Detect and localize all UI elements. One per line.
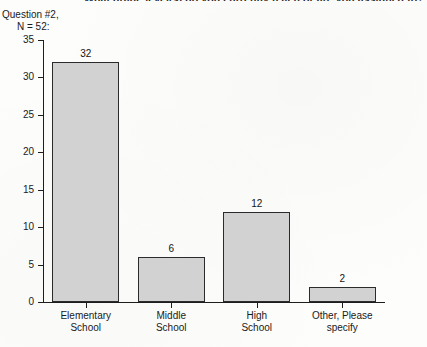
y-axis-tick — [38, 190, 43, 191]
bar — [138, 257, 205, 302]
bar — [309, 287, 376, 302]
y-axis-tick-label: 10 — [0, 222, 34, 232]
y-axis-tick — [38, 302, 43, 303]
y-axis-tick — [38, 265, 43, 266]
y-axis-tick-label: 25 — [0, 110, 34, 120]
y-axis-tick — [38, 227, 43, 228]
y-axis-tick-label: 20 — [0, 147, 34, 157]
x-axis-tick — [171, 303, 172, 308]
y-axis-tick — [38, 115, 43, 116]
x-axis-category-label: Other, Pleasespecify — [292, 310, 392, 334]
y-axis-tick — [38, 40, 43, 41]
y-axis-tick-label: 30 — [0, 72, 34, 82]
bar-chart-plot: 05101520253035 326122 ElementarySchoolMi… — [0, 0, 427, 347]
y-axis-tick-label: 15 — [0, 185, 34, 195]
x-axis-line — [43, 302, 385, 303]
y-axis-tick-label: 5 — [0, 260, 34, 270]
x-axis-tick — [342, 303, 343, 308]
y-axis-tick-label: 35 — [0, 35, 34, 45]
x-axis-tick — [257, 303, 258, 308]
y-axis-tick — [38, 152, 43, 153]
y-axis-tick — [38, 77, 43, 78]
chart-page: What grade level(s) do you currently tea… — [0, 0, 427, 347]
category-label-line: specify — [292, 322, 392, 334]
bar — [52, 62, 119, 302]
x-axis-tick — [86, 303, 87, 308]
bar-value-label: 32 — [61, 49, 111, 59]
y-axis-line — [43, 40, 44, 303]
bar-value-label: 6 — [146, 244, 196, 254]
bar — [223, 212, 290, 302]
bar-value-label: 2 — [317, 274, 367, 284]
y-axis-tick-label: 0 — [0, 297, 34, 307]
category-label-line: Other, Please — [292, 310, 392, 322]
bar-value-label: 12 — [232, 199, 282, 209]
